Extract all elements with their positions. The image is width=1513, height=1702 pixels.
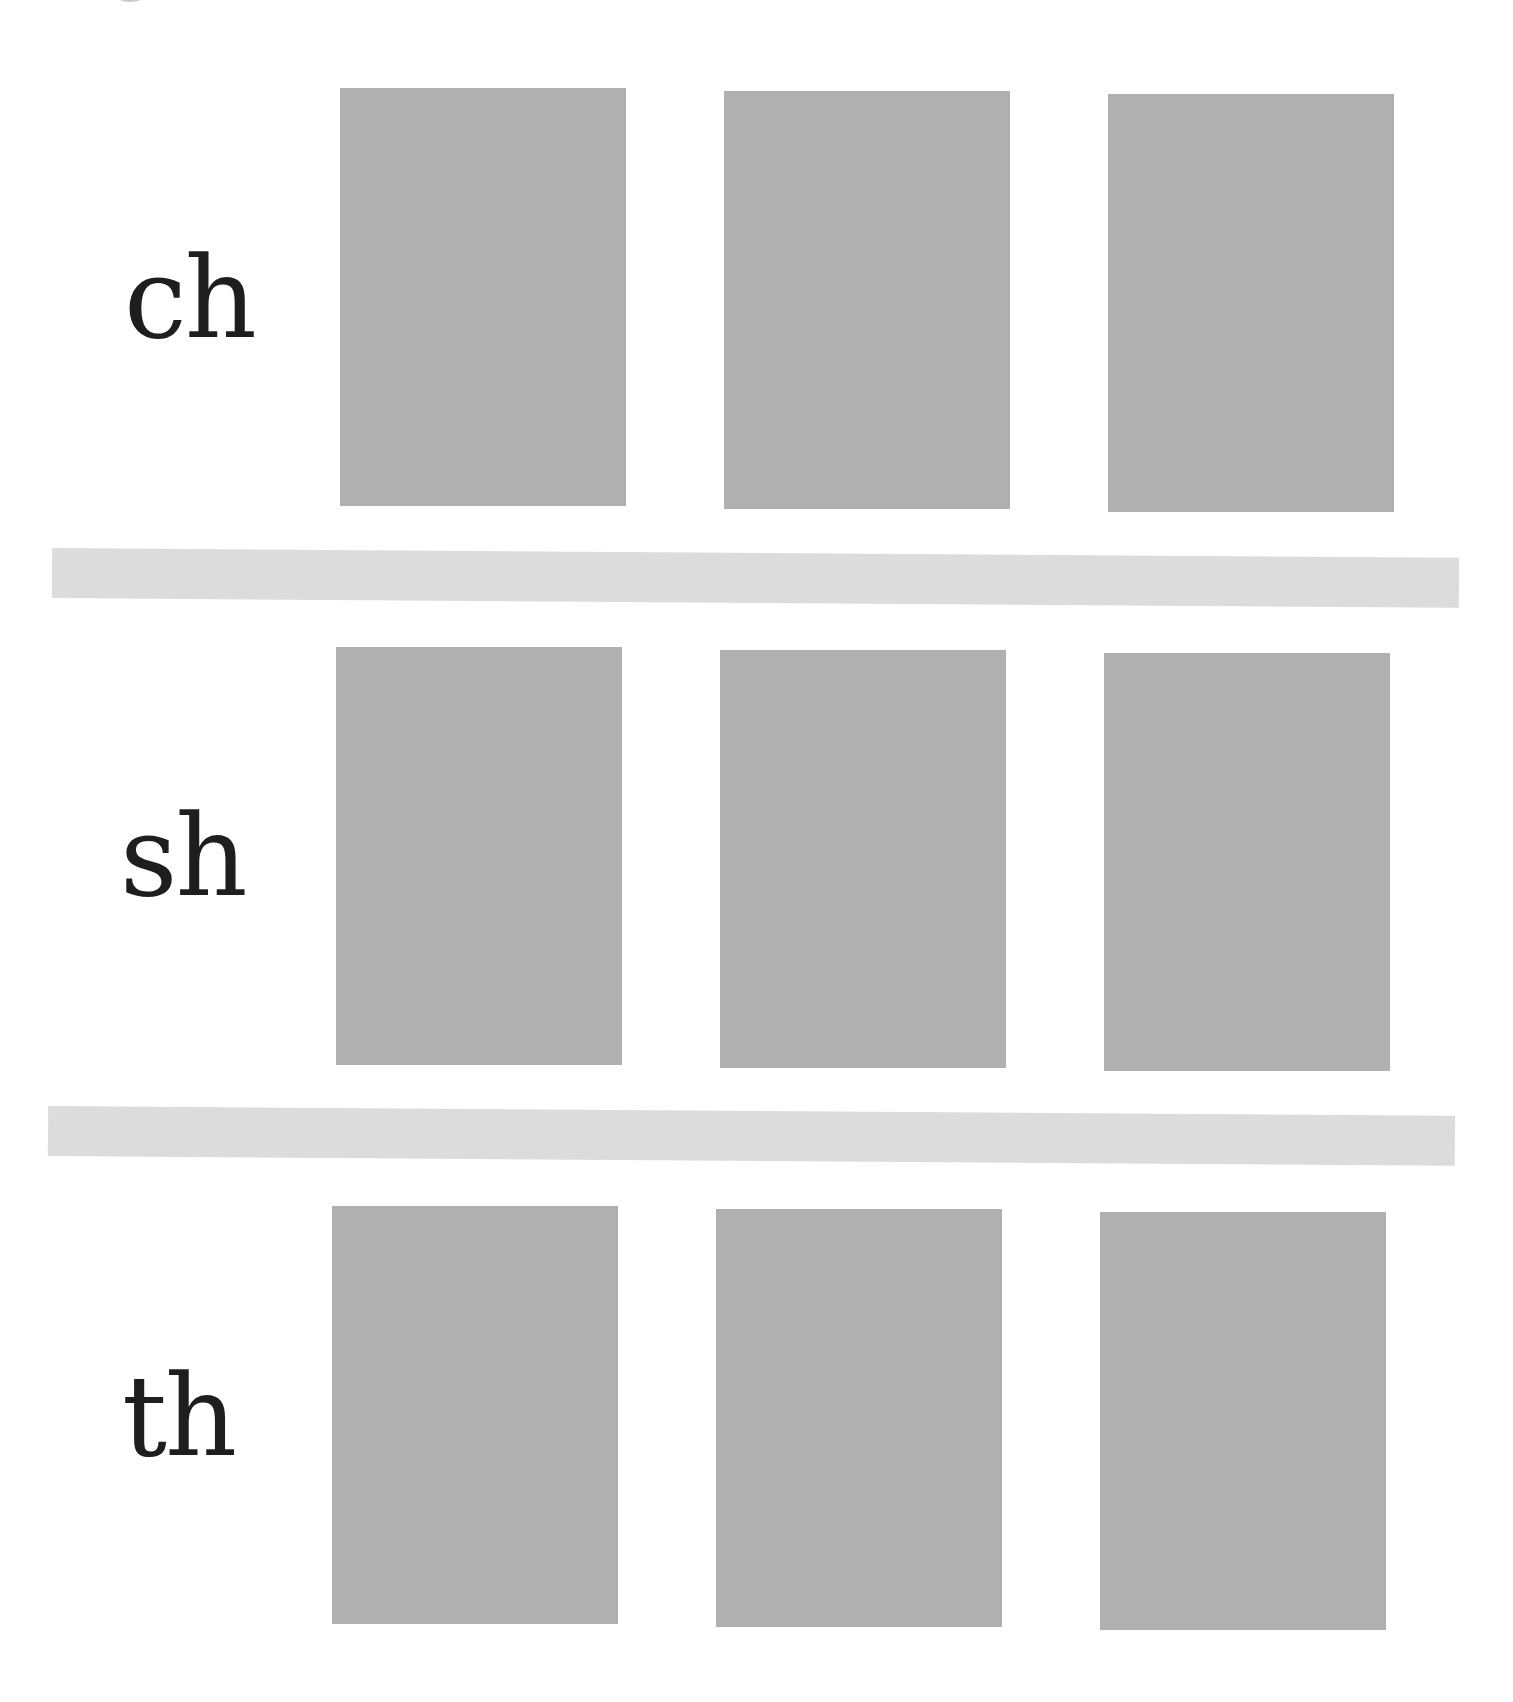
card-slot-ch-2[interactable] [724,91,1010,509]
card-slot-ch-1[interactable] [340,88,626,506]
card-slot-th-3[interactable] [1100,1212,1386,1630]
card-slot-th-2[interactable] [716,1209,1002,1627]
row-divider-1 [52,548,1459,608]
card-slot-ch-3[interactable] [1108,94,1394,512]
card-slot-sh-2[interactable] [720,650,1006,1068]
card-slot-sh-3[interactable] [1104,653,1390,1071]
card-slot-sh-1[interactable] [336,647,622,1065]
row-label-sh: sh [120,800,246,912]
row-divider-2 [48,1106,1455,1166]
decorative-circle-icon [100,0,160,2]
row-label-th: th [122,1360,235,1472]
row-label-ch: ch [124,242,255,354]
card-slot-th-1[interactable] [332,1206,618,1624]
